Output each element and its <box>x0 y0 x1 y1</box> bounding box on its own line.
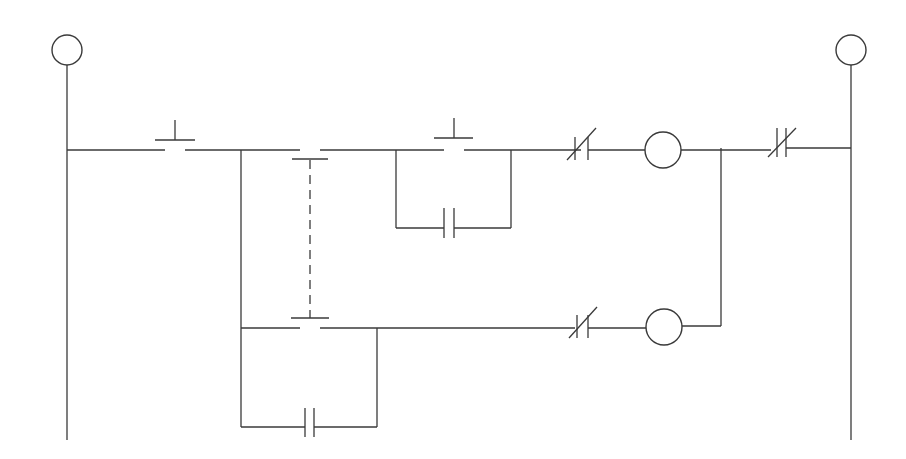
coil-icon <box>646 309 682 345</box>
seal-in-branch <box>396 150 511 238</box>
pushbutton-no-icon <box>434 118 473 138</box>
ladder-diagram <box>0 0 906 459</box>
contact-nc-icon <box>567 128 596 160</box>
rung-1 <box>67 118 851 238</box>
right-terminal-circle-icon <box>836 35 866 65</box>
contact-no-icon <box>444 208 454 238</box>
coil-icon <box>645 132 681 168</box>
contact-no-icon <box>305 408 314 437</box>
rung-2 <box>241 307 721 437</box>
seal-in-branch <box>241 328 377 437</box>
right-power-rail <box>836 35 866 440</box>
left-power-rail <box>52 35 82 440</box>
contact-nc-icon <box>569 307 597 338</box>
contact-nc-icon <box>768 128 796 157</box>
left-terminal-circle-icon <box>52 35 82 65</box>
pushbutton-no-icon <box>155 120 195 140</box>
